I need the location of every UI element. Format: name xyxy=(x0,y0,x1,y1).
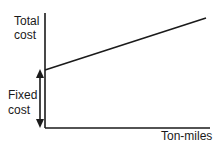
fixed-cost-label-line1: Fixed xyxy=(8,88,37,103)
arrow-up-icon xyxy=(36,69,44,78)
fixed-cost-label: Fixed cost xyxy=(8,88,37,118)
y-axis-label-line1: Total xyxy=(14,14,39,28)
fixed-cost-label-line2: cost xyxy=(8,103,37,118)
total-cost-line xyxy=(45,18,206,70)
y-axis-label-line2: cost xyxy=(14,28,39,42)
x-axis-label: Ton-miles xyxy=(161,129,212,143)
arrow-down-icon xyxy=(36,119,44,128)
y-axis-label: Total cost xyxy=(14,14,39,42)
